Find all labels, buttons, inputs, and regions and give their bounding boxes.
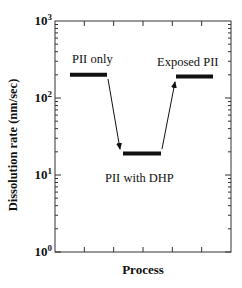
y-tick-label-1e1: 101: [24, 166, 52, 183]
y-tick-label-1e0: 100: [24, 243, 52, 260]
data-series: [70, 75, 213, 154]
annotation-pii-with-dhp: PII with DHP: [105, 171, 174, 186]
arrow-decrease: [108, 79, 120, 149]
y-axis-label: Dissolution rate (nm/sec): [3, 60, 23, 230]
arrow-increase: [162, 82, 175, 149]
x-axis-label: Process: [55, 262, 231, 278]
annotation-exposed-pii: Exposed PII: [157, 55, 218, 70]
y-tick-label-1e3: 103: [24, 12, 52, 29]
y-tick-label-1e2: 102: [24, 89, 52, 106]
chart-figure: Dissolution rate (nm/sec) Process 103 10…: [0, 0, 242, 288]
annotation-pii-only: PII only: [72, 52, 113, 67]
